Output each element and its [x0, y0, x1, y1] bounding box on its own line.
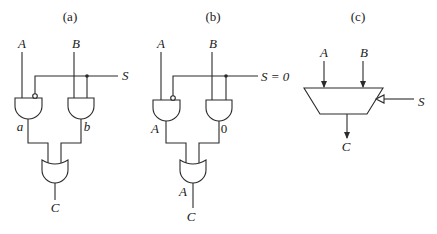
output-c-label: C — [342, 139, 351, 154]
inverter-bubble — [33, 94, 38, 99]
select-s-label: S = 0 — [261, 69, 290, 84]
input-a-label: A — [17, 36, 26, 51]
input-b-label: B — [360, 45, 368, 60]
left-gate-output-label: A — [150, 121, 159, 136]
select-s-label: S — [122, 68, 129, 83]
input-a-label: A — [319, 45, 328, 60]
panel-a: (a) A B S a b C — [15, 9, 129, 215]
and-gate-left — [153, 100, 180, 121]
panel-b-caption: (b) — [205, 9, 220, 24]
junction-dot — [224, 74, 228, 78]
wire-left-to-or — [166, 121, 186, 163]
output-c-label: C — [51, 200, 60, 215]
or-gate — [180, 160, 206, 183]
arrowhead-b-icon — [360, 81, 366, 88]
wire-right-to-or — [61, 119, 81, 163]
wire-s — [35, 76, 118, 95]
junction-dot — [85, 74, 89, 78]
or-output-label: A — [178, 184, 187, 199]
right-gate-output-label: b — [84, 119, 91, 134]
arrowhead-c-icon — [344, 132, 350, 139]
wire-right-to-or — [199, 121, 219, 163]
inverter-bubble — [171, 96, 176, 101]
input-b-label: B — [209, 36, 217, 51]
and-gate-left — [15, 98, 42, 119]
panel-b: (b) A B S = 0 A 0 A C — [150, 9, 290, 224]
input-a-label: A — [156, 36, 165, 51]
left-gate-output-label: a — [17, 119, 24, 134]
panel-c: (c) A B S C — [304, 9, 425, 154]
wire-s — [173, 76, 258, 96]
wire-left-to-or — [28, 119, 48, 163]
select-s-label: S — [418, 94, 425, 109]
multiplexer-diagram: (a) A B S a b C (b) A B S = 0 — [0, 0, 437, 234]
right-gate-output-label: 0 — [221, 121, 228, 136]
panel-a-caption: (a) — [63, 9, 77, 24]
and-gate-right — [68, 98, 94, 119]
panel-c-caption: (c) — [351, 9, 365, 24]
arrowhead-a-icon — [321, 81, 327, 88]
output-c-label: C — [187, 209, 196, 224]
and-gate-right — [206, 100, 232, 121]
input-b-label: B — [72, 36, 80, 51]
or-gate — [42, 160, 68, 183]
mux-block — [304, 88, 383, 114]
